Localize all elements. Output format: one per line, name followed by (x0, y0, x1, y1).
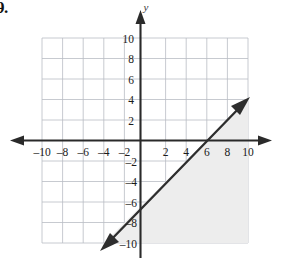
figure-page: 9. (0, 0, 282, 261)
x-axis-right-arrowhead (258, 136, 272, 146)
y-tick-label: 6 (128, 74, 134, 86)
y-tick-label: 10 (123, 33, 135, 45)
y-tick-label: 8 (128, 53, 134, 65)
y-tick-label: –2 (125, 156, 138, 168)
y-tick-label: 2 (128, 115, 134, 127)
x-tick-label: 2 (163, 146, 169, 158)
y-tick-label: 4 (128, 94, 134, 106)
y-axis-label: y (143, 1, 149, 13)
x-axis-left-arrowhead (10, 136, 24, 146)
x-tick-label: 4 (183, 146, 189, 158)
y-tick-label: –4 (125, 176, 138, 188)
x-tick-label: –10 (32, 146, 51, 158)
x-tick-label: 8 (225, 146, 231, 158)
x-tick-label: 10 (242, 146, 254, 158)
coordinate-graph: –10 –8 –6 –4 –2 2 4 6 8 10 10 8 6 4 2 –2… (0, 0, 282, 261)
x-tick-label: –6 (76, 146, 89, 158)
y-tick-label: –6 (125, 197, 138, 209)
y-tick-label: –10 (119, 238, 138, 250)
y-tick-label: –8 (125, 217, 138, 229)
x-tick-label: –4 (97, 146, 110, 158)
x-tick-label: –8 (56, 146, 69, 158)
x-tick-label: 6 (204, 146, 210, 158)
